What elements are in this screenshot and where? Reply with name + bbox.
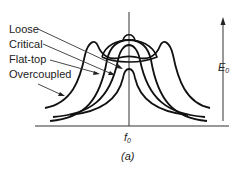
arrowhead-icon [221,17,226,25]
leader-loose [38,29,121,68]
label-critical: Critical [9,38,43,50]
label-flat-top: Flat-top [9,53,46,65]
leader-overcoupled [38,84,62,95]
y-axis-label-sub: 0 [225,67,229,74]
arrowhead-overcoupled-icon [58,92,65,96]
x-axis-label-sub: 0 [127,137,131,144]
x-axis-label: f0 [124,131,131,147]
label-loose: Loose [9,23,39,35]
y-axis-label: E0 [218,61,229,77]
figure-caption: (a) [121,150,134,162]
label-overcoupled: Overcoupled [9,68,71,80]
arrowhead-flat-top-icon [93,71,100,75]
